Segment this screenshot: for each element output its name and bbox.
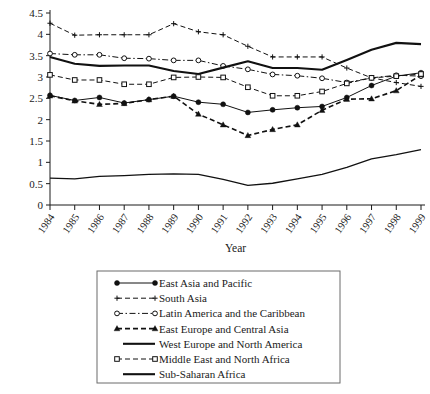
data-point-marker: [245, 44, 250, 49]
data-point-marker: [221, 32, 226, 37]
data-point-marker: [246, 85, 251, 90]
data-point-marker: [97, 32, 102, 37]
legend-item-west-europe-and-north-america[interactable]: West Europe and North America: [123, 338, 302, 350]
data-point-marker: [295, 54, 300, 59]
data-point-marker: [153, 311, 158, 316]
data-point-marker: [72, 52, 77, 57]
x-axis-tick-group: 1984198519861987198819891990199119921993…: [36, 205, 428, 235]
legend-item-group: East Asia and PacificSouth AsiaLatin Ame…: [114, 277, 305, 380]
series-east-asia-and-pacific: [48, 70, 424, 115]
data-point-marker: [196, 100, 201, 105]
x-tick-label-1993: 1993: [258, 212, 279, 236]
data-point-marker: [295, 93, 300, 98]
data-point-marker: [196, 75, 201, 80]
data-point-marker: [394, 74, 399, 79]
series-latin-america-and-the-caribbean: [48, 51, 424, 85]
legend-item-label: Latin America and the Caribbean: [159, 307, 305, 319]
data-point-marker: [115, 311, 120, 316]
legend-item-south-asia[interactable]: South Asia: [114, 292, 207, 304]
data-point-marker: [245, 67, 250, 72]
data-point-marker: [319, 54, 324, 59]
data-point-marker: [153, 281, 158, 286]
data-point-marker: [122, 32, 127, 37]
data-point-marker: [97, 78, 102, 83]
series-line: [50, 150, 421, 186]
y-tick-label-0: 0: [38, 199, 44, 211]
series-group: [47, 21, 424, 186]
series-sub-saharan-africa: [50, 150, 421, 186]
data-point-marker: [419, 72, 424, 77]
data-point-marker: [72, 78, 77, 83]
x-tick-label-1996: 1996: [332, 212, 353, 236]
data-point-marker: [295, 105, 300, 110]
x-tick-label-1995: 1995: [308, 212, 329, 236]
data-point-marker: [48, 51, 53, 56]
legend-item-label: Middle East and North Africa: [159, 353, 290, 365]
data-point-marker: [270, 72, 275, 77]
legend-item-sub-saharan-africa[interactable]: Sub-Saharan Africa: [123, 368, 246, 380]
y-tick-label-7: 3.5: [29, 50, 43, 62]
data-point-marker: [147, 82, 152, 87]
data-point-marker: [171, 58, 176, 63]
data-point-marker: [345, 81, 350, 86]
data-point-marker: [295, 73, 300, 78]
y-tick-label-6: 3: [38, 71, 44, 83]
y-tick-label-2: 1: [38, 156, 44, 168]
y-axis-tick-group: 00.511.522.533.544.5: [29, 7, 50, 211]
x-tick-label-1984: 1984: [36, 211, 57, 235]
data-point-marker: [153, 357, 158, 362]
y-tick-label-4: 2: [38, 114, 44, 126]
data-point-marker: [146, 32, 151, 37]
x-tick-label-1989: 1989: [159, 212, 180, 236]
data-point-marker: [171, 75, 176, 80]
data-point-marker: [115, 281, 120, 286]
series-line: [50, 23, 421, 86]
data-point-marker: [320, 89, 325, 94]
data-point-marker: [270, 93, 275, 98]
x-tick-label-1985: 1985: [60, 212, 81, 236]
data-point-marker: [221, 75, 226, 80]
x-tick-label-1986: 1986: [85, 212, 106, 236]
data-point-marker: [72, 33, 77, 38]
legend-item-label: Sub-Saharan Africa: [159, 368, 246, 380]
data-point-marker: [97, 95, 102, 100]
data-point-marker: [122, 56, 127, 61]
y-tick-label-5: 2.5: [29, 92, 43, 104]
data-point-marker: [320, 76, 325, 81]
y-tick-label-1: 0.5: [29, 178, 43, 190]
x-tick-label-1998: 1998: [382, 212, 403, 236]
line-chart: 00.511.522.533.544.5 1984198519861987198…: [0, 0, 430, 394]
series-line: [50, 74, 421, 96]
legend-item-label: West Europe and North America: [159, 338, 302, 350]
series-line: [50, 54, 421, 83]
data-point-marker: [114, 296, 119, 301]
series-line: [50, 43, 421, 74]
chart-legend: East Asia and PacificSouth AsiaLatin Ame…: [97, 271, 340, 383]
data-point-marker: [369, 76, 374, 81]
data-point-marker: [270, 54, 275, 59]
y-tick-label-9: 4.5: [29, 7, 43, 19]
legend-item-latin-america-and-the-caribbean[interactable]: Latin America and the Caribbean: [115, 307, 306, 319]
chart-figure: 00.511.522.533.544.5 1984198519861987198…: [0, 0, 430, 394]
legend-item-middle-east-and-north-africa[interactable]: Middle East and North Africa: [115, 353, 290, 365]
legend-item-east-asia-and-pacific[interactable]: East Asia and Pacific: [115, 277, 253, 289]
x-tick-label-1988: 1988: [135, 212, 156, 236]
data-point-marker: [171, 21, 176, 26]
legend-item-label: East Europe and Central Asia: [159, 323, 289, 335]
data-point-marker: [344, 65, 349, 70]
data-point-marker: [147, 56, 152, 61]
data-point-marker: [221, 102, 226, 107]
data-point-marker: [196, 29, 201, 34]
data-point-marker: [48, 73, 53, 78]
data-point-marker: [394, 80, 399, 85]
legend-item-east-europe-and-central-asia[interactable]: East Europe and Central Asia: [114, 323, 289, 335]
y-tick-label-8: 4: [38, 28, 44, 40]
legend-item-label: South Asia: [159, 292, 207, 304]
x-tick-label-1987: 1987: [110, 212, 131, 236]
data-point-marker: [196, 58, 201, 63]
data-point-marker: [270, 107, 275, 112]
series-east-europe-and-central-asia: [47, 72, 424, 138]
x-axis-title: Year: [225, 242, 246, 254]
data-point-marker: [418, 84, 423, 89]
x-tick-label-1999: 1999: [407, 212, 428, 236]
